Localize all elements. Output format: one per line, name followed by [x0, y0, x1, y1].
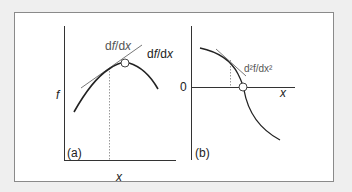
- panel-b-zero-crossing-marker: [239, 83, 247, 91]
- panel-a-y-axis-label: f: [56, 88, 61, 102]
- panel-b-zero-label: 0: [180, 80, 187, 94]
- panel-b: df/dx 0 x d²f/dx² (b): [147, 26, 295, 160]
- panel-a-tangent-label: df/dx: [105, 39, 132, 53]
- panel-a-x-axis-label: x: [115, 170, 123, 184]
- panel-b-tangent-line: [216, 49, 246, 76]
- panel-a-curve: [74, 62, 158, 112]
- panel-a-maximum-marker: [121, 59, 129, 67]
- panel-b-tangent-label: d²f/dx²: [244, 63, 273, 74]
- derivative-diagram: df/dx f x (a) df/dx 0 x d²f/dx² (b): [0, 0, 352, 192]
- panel-b-curve: [200, 48, 280, 140]
- panel-b-label: (b): [195, 146, 210, 160]
- panel-b-y-axis-label: df/dx: [147, 47, 174, 61]
- panel-a-label: (a): [67, 146, 82, 160]
- panel-b-x-axis-label: x: [279, 86, 287, 100]
